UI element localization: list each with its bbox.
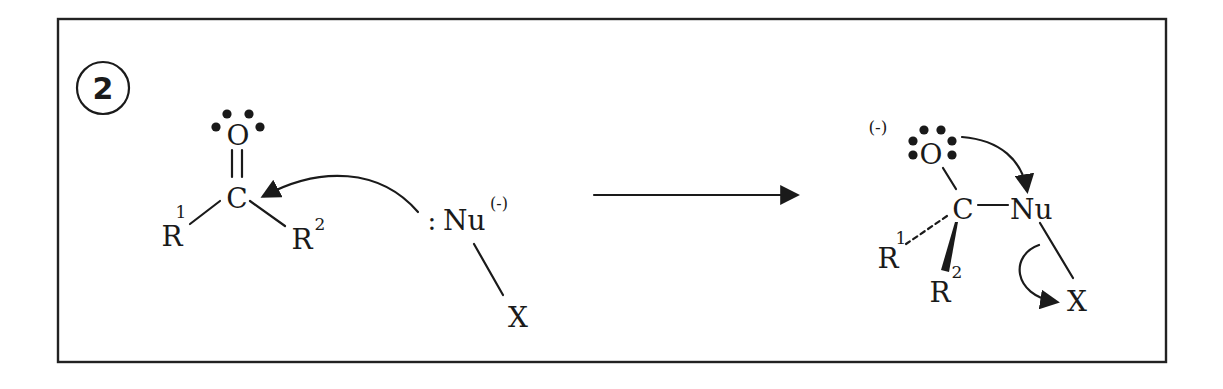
mechanism-diagram: 2 O C R 1 R 2 : Nu (-) X: [0, 0, 1223, 389]
reactant-r1: R: [161, 220, 183, 253]
leaving-group-arrow-icon: [1020, 245, 1056, 302]
reactant-nucleophile-label: Nu: [443, 204, 486, 237]
nucleophile-lone-pair: :: [428, 206, 437, 236]
reactant-r1-superscript: 1: [176, 202, 187, 222]
reactant-oxygen: O: [227, 119, 250, 152]
reactant-nucleophile: : Nu (-) X: [428, 194, 528, 334]
dashed-bond-c-r1: [906, 216, 947, 244]
electron-push-arrow-icon: [962, 137, 1027, 190]
figure-frame: [58, 19, 1166, 362]
product-nucleophile: Nu: [1010, 193, 1053, 226]
product-carbon: C: [952, 193, 973, 226]
step-number: 2: [93, 71, 114, 106]
reactant-r2: R: [291, 223, 313, 256]
reactant-leaving-group: X: [508, 301, 528, 334]
product-r1-superscript: 1: [896, 228, 907, 248]
bond-c-r2: [250, 201, 285, 226]
bond-c-r1: [190, 201, 220, 224]
nucleophile-charge: (-): [490, 194, 508, 213]
bond-nu-x: [474, 244, 503, 295]
reactant-carbonyl: O C R 1 R 2: [161, 109, 325, 256]
product-tetrahedral-intermediate: (-) O C Nu R 1 R 2 X: [868, 117, 1087, 318]
bond-nu-x: [1040, 223, 1073, 278]
product-r2: R: [929, 276, 951, 309]
product-leaving-group: X: [1067, 285, 1087, 318]
nucleophilic-attack-arrow-icon: [264, 176, 418, 212]
bond-o-c: [943, 168, 956, 189]
product-oxygen: O: [920, 138, 943, 171]
reactant-carbon: C: [226, 182, 247, 215]
product-r2-superscript: 2: [952, 262, 963, 282]
product-oxygen-charge: (-): [868, 117, 887, 137]
step-badge: 2: [77, 62, 129, 114]
reactant-r2-superscript: 2: [315, 214, 326, 234]
